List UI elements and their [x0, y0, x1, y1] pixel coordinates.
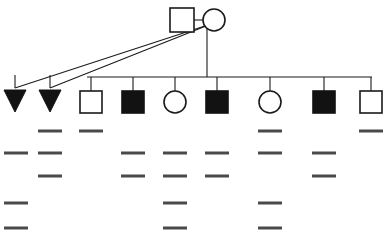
pedigree-symbols-group [4, 8, 382, 113]
pedigree-gel-figure [0, 0, 392, 235]
gel-band-lane2-row2 [38, 152, 62, 155]
gel-band-lane4-row3 [121, 175, 145, 178]
symbol-II-5-circle-unaffected [164, 91, 186, 113]
gel-band-lane5-row5 [163, 227, 187, 230]
symbol-II-6-square-affected [206, 91, 228, 113]
gel-bands-group [4, 130, 383, 230]
gel-band-lane1-row4 [4, 202, 28, 205]
gel-band-lane8-row2 [312, 152, 336, 155]
gel-band-lane1-row5 [4, 227, 28, 230]
gel-band-lane5-row2 [163, 152, 187, 155]
gel-band-lane2-row1 [38, 130, 62, 133]
gel-band-lane7-row4 [258, 202, 282, 205]
gel-band-lane4-row2 [121, 152, 145, 155]
gel-band-lane7-row5 [258, 227, 282, 230]
symbol-II-3-square-unaffected [80, 91, 102, 113]
gel-band-lane2-row3 [38, 175, 62, 178]
symbol-II-2-triangle-pregnancy-loss [39, 90, 61, 112]
symbol-I-1-square-unaffected [170, 8, 194, 32]
symbol-II-1-triangle-pregnancy-loss [4, 90, 26, 112]
gel-band-lane1-row2 [4, 152, 28, 155]
pedigree-figure-root [0, 0, 392, 235]
gel-band-lane3-row1 [79, 130, 103, 133]
gel-band-lane7-row1 [258, 130, 282, 133]
symbol-I-2-circle-unaffected [203, 9, 225, 31]
pregnancy-loss-connector-2 [50, 24, 211, 88]
pregnancy-loss-connector-1 [15, 24, 211, 88]
symbol-II-7-circle-unaffected [259, 91, 281, 113]
gel-band-lane9-row1 [359, 130, 383, 133]
gel-band-lane6-row3 [205, 175, 229, 178]
symbol-II-8-square-affected [313, 91, 335, 113]
gel-band-lane6-row2 [205, 152, 229, 155]
symbol-II-9-square-unaffected [360, 91, 382, 113]
gel-band-lane8-row3 [312, 175, 336, 178]
symbol-II-4-square-affected [122, 91, 144, 113]
gel-band-lane7-row2 [258, 152, 282, 155]
gel-band-lane5-row4 [163, 202, 187, 205]
gel-band-lane5-row3 [163, 175, 187, 178]
